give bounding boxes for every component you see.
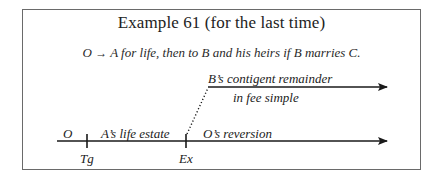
timeline-start-label: O	[63, 127, 72, 140]
remainder-label-line1: B’s contigent remainder	[208, 72, 332, 85]
tick-tg-label: Tg	[80, 152, 94, 165]
remainder-label-line2: in fee simple	[233, 91, 299, 104]
tick-ex-label: Ex	[179, 152, 193, 165]
life-estate-label: A’s life estate	[101, 127, 170, 140]
estate-timeline-diagram	[0, 0, 443, 181]
reversion-label: O’s reversion	[203, 127, 272, 140]
